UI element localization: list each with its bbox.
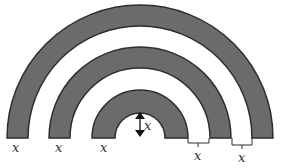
label-gap-outer: x bbox=[238, 150, 246, 165]
label-inner-width: x bbox=[100, 140, 108, 155]
rainbow-diagram: x x x x x x bbox=[0, 0, 281, 168]
label-inner-radius: x bbox=[144, 118, 152, 133]
label-middle-width: x bbox=[55, 140, 63, 155]
gap-bracket-inner bbox=[188, 138, 209, 147]
label-outer-width: x bbox=[12, 140, 20, 155]
label-gap-inner: x bbox=[194, 148, 202, 163]
gap-bracket-outer bbox=[232, 138, 252, 149]
